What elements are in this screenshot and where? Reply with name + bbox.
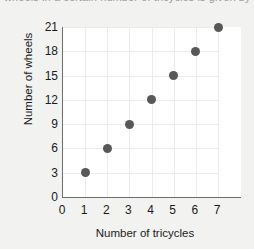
plot-frame — [62, 27, 218, 198]
gridline-horizontal — [63, 124, 218, 125]
data-point — [81, 168, 90, 177]
gridline-vertical — [218, 27, 219, 197]
data-point — [147, 95, 156, 104]
gridline-horizontal — [63, 100, 218, 101]
gridline-horizontal — [63, 27, 218, 28]
gridline-vertical — [129, 27, 130, 197]
gridline-horizontal — [63, 76, 218, 77]
y-tick-label: 6 — [18, 141, 58, 155]
clipped-caption-strip: wheels in a certain number of tricycles … — [0, 0, 254, 9]
scatter-chart-figure: Number of wheels 036912151821 01234567 N… — [0, 9, 254, 249]
data-point — [103, 144, 112, 153]
data-point — [214, 23, 223, 32]
gridline-vertical — [107, 27, 108, 197]
y-tick-label: 15 — [18, 69, 58, 83]
plot-area — [63, 27, 218, 197]
y-axis-tick-labels: 036912151821 — [14, 27, 58, 197]
data-point — [169, 71, 178, 80]
x-tick-label: 7 — [202, 203, 232, 217]
data-point — [191, 47, 200, 56]
y-tick-label: 9 — [18, 117, 58, 131]
y-tick-label: 21 — [18, 20, 58, 34]
x-axis-tick-labels: 01234567 — [62, 203, 217, 219]
y-tick-label: 12 — [18, 93, 58, 107]
y-tick-label: 3 — [18, 166, 58, 180]
y-tick-label: 0 — [18, 190, 58, 204]
gridline-vertical — [174, 27, 175, 197]
plot-canvas-extension — [217, 27, 241, 198]
y-tick-label: 18 — [18, 44, 58, 58]
gridline-horizontal — [63, 148, 218, 149]
data-point — [125, 120, 134, 129]
clipped-caption-text: wheels in a certain number of tricycles … — [4, 0, 251, 3]
gridline-vertical — [152, 27, 153, 197]
x-axis-title: Number of tricycles — [50, 227, 240, 239]
